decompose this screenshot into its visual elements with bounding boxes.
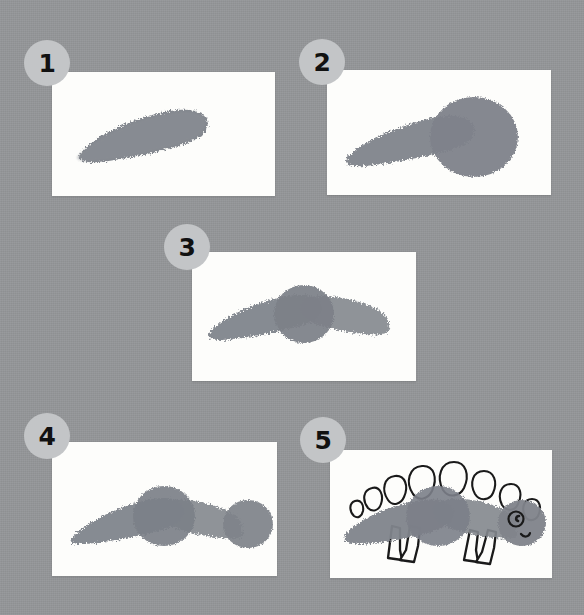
- step-3-card: [192, 252, 416, 381]
- step-5-card: [330, 450, 552, 578]
- step-2-number: 2: [314, 48, 331, 77]
- step-5-badge[interactable]: 5: [300, 417, 346, 463]
- step-4-badge[interactable]: 4: [24, 413, 70, 459]
- body-blob: [430, 97, 518, 177]
- step-5-number: 5: [315, 426, 332, 455]
- step-5-svg: [330, 450, 552, 578]
- step-2-svg: [327, 70, 551, 195]
- step-2-badge[interactable]: 2: [299, 39, 345, 85]
- plate-3: [384, 476, 406, 504]
- step-3-number: 3: [179, 233, 196, 262]
- plate-1: [350, 501, 363, 518]
- step-5-artwork: [330, 450, 552, 578]
- step-3-badge[interactable]: 3: [164, 224, 210, 270]
- step-1-artwork: [52, 72, 275, 196]
- body-blob: [133, 486, 195, 546]
- step-4-artwork: [52, 442, 277, 576]
- plate-2: [364, 488, 382, 511]
- step-4-svg: [52, 442, 277, 576]
- step-4-card: [52, 442, 277, 576]
- step-2-card: [327, 70, 551, 195]
- step-4-number: 4: [39, 422, 56, 451]
- step-1-number: 1: [39, 49, 56, 78]
- step-2-artwork: [327, 70, 551, 195]
- step-1-badge[interactable]: 1: [24, 40, 70, 86]
- step-1-svg: [52, 72, 275, 196]
- body-blob: [274, 285, 334, 343]
- body-blob: [406, 486, 470, 546]
- step-3-artwork: [192, 252, 416, 381]
- step-3-svg: [192, 252, 416, 381]
- head-blob: [223, 500, 273, 548]
- plate-6: [472, 471, 495, 499]
- step-1-card: [52, 72, 275, 196]
